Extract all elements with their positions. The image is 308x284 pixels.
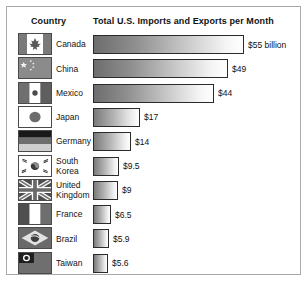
chart-row: Germany$14 (7, 130, 300, 154)
bar-container: $55 billion (93, 35, 298, 54)
value-bar (93, 108, 140, 127)
value-bar (93, 59, 228, 78)
value-label: $44 (214, 84, 232, 103)
value-label: $14 (131, 132, 149, 151)
flag-united-kingdom-icon (18, 179, 52, 201)
chart-row: Brazil$5.9 (7, 227, 300, 251)
chart-row: South Korea$9.5 (7, 155, 300, 179)
value-bar (93, 254, 108, 273)
bar-container: $9 (93, 181, 298, 200)
bar-container: $5.6 (93, 254, 298, 273)
flag-germany-icon (18, 130, 52, 152)
value-bar (93, 132, 131, 151)
bar-container: $6.5 (93, 205, 298, 224)
bar-container: $14 (93, 132, 298, 151)
flag-canada-icon (18, 33, 52, 55)
value-label: $9.5 (119, 157, 140, 176)
chart-row: Japan$17 (7, 106, 300, 130)
value-bar (93, 157, 119, 176)
value-label: $6.5 (111, 205, 132, 224)
value-label: $5.9 (109, 229, 130, 248)
chart-row: Mexico$44 (7, 82, 300, 106)
flag-taiwan-icon (18, 252, 52, 274)
chart-row: United Kingdom$9 (7, 179, 300, 203)
value-label: $9 (118, 181, 131, 200)
bar-container: $9.5 (93, 157, 298, 176)
chart-row: France$6.5 (7, 203, 300, 227)
chart-row: China$49 (7, 57, 300, 81)
flag-south-korea-icon (18, 155, 52, 177)
value-label: $49 (228, 59, 246, 78)
flag-france-icon (18, 203, 52, 225)
chart-row: Canada$55 billion (7, 33, 300, 57)
flag-mexico-icon (18, 82, 52, 104)
bar-container: $49 (93, 59, 298, 78)
bar-container: $44 (93, 84, 298, 103)
flag-japan-icon (18, 106, 52, 128)
value-bar (93, 205, 111, 224)
flag-brazil-icon (18, 227, 52, 249)
value-bar (93, 35, 244, 54)
value-label: $5.6 (108, 254, 129, 273)
value-bar (93, 181, 118, 200)
column-header-country: Country (31, 16, 66, 26)
column-header-metric: Total U.S. Imports and Exports per Month (93, 16, 274, 26)
value-bar (93, 229, 109, 248)
bar-container: $17 (93, 108, 298, 127)
flag-china-icon (18, 57, 52, 79)
value-label: $17 (140, 108, 158, 127)
value-label: $55 billion (244, 35, 286, 54)
chart-row: Taiwan$5.6 (7, 252, 300, 276)
import-export-chart: Country Total U.S. Imports and Exports p… (6, 6, 301, 275)
value-bar (93, 84, 214, 103)
bar-container: $5.9 (93, 229, 298, 248)
